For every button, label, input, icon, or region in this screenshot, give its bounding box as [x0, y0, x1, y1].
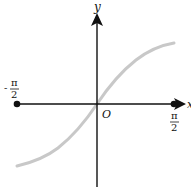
- left-tick-sign: -: [4, 82, 7, 93]
- origin-label: O: [102, 108, 111, 121]
- left-tick-denominator: 2: [11, 89, 17, 100]
- right-endpoint-dot: [171, 101, 178, 108]
- left-endpoint-dot: [14, 101, 21, 108]
- function-graph: y x O - π 2 π 2: [0, 0, 191, 187]
- right-tick-denominator: 2: [171, 122, 177, 133]
- x-axis-label: x: [187, 98, 191, 111]
- right-tick-numerator: π: [171, 110, 178, 121]
- left-tick-numerator: π: [11, 77, 18, 88]
- y-axis-label: y: [93, 0, 101, 14]
